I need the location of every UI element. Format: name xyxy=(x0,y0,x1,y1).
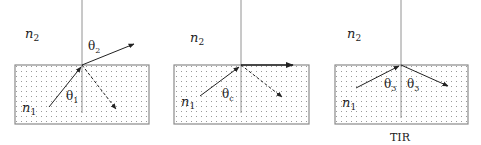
outer-medium-label: n2 xyxy=(190,30,204,47)
outer-medium-label: n2 xyxy=(347,26,361,43)
tir-caption: TIR xyxy=(390,131,411,144)
refracted-angle-label: θ2 xyxy=(88,39,100,55)
medium-n1-block xyxy=(174,65,309,124)
outer-medium-label: n2 xyxy=(25,26,39,43)
panel-total-internal-reflection: n2 n1 θ3 θ3 TIR xyxy=(335,0,468,144)
diagram-canvas: n2 n1 θ1 θ2 n2 n1 θc n2 n1 θ3 θ3 TIR xyxy=(0,0,481,145)
panel-critical-angle: n2 n1 θc xyxy=(174,0,309,124)
panel-refraction: n2 n1 θ1 θ2 xyxy=(15,0,149,124)
medium-n1-block xyxy=(335,65,468,124)
